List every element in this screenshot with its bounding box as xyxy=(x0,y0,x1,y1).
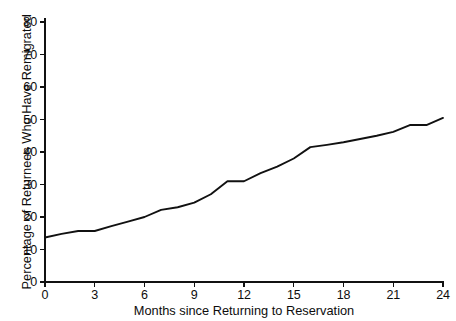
chart-figure: 01020304050607080 03691215182124 Percent… xyxy=(0,0,456,321)
remigration-line xyxy=(45,118,443,238)
data-series-line xyxy=(0,0,456,321)
